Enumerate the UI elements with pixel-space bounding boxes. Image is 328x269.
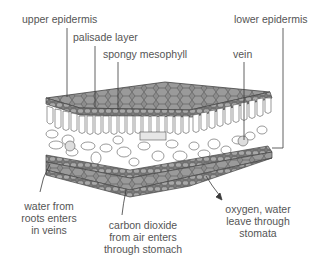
- label-carbon-dioxide: carbon dioxide from air enters through s…: [100, 219, 186, 255]
- label-palisade-layer: palisade layer: [73, 31, 138, 43]
- vein-left: [65, 141, 75, 151]
- label-upper-epidermis: upper epidermis: [22, 13, 97, 25]
- label-oxygen-water: oxygen, water leave through stomata: [220, 203, 296, 239]
- label-spongy-mesophyll: spongy mesophyll: [103, 48, 187, 60]
- label-water: water from roots enters in veins: [18, 200, 80, 236]
- label-lower-epidermis: lower epidermis: [234, 13, 308, 25]
- vein-right: [238, 136, 248, 146]
- label-vein: vein: [233, 48, 252, 60]
